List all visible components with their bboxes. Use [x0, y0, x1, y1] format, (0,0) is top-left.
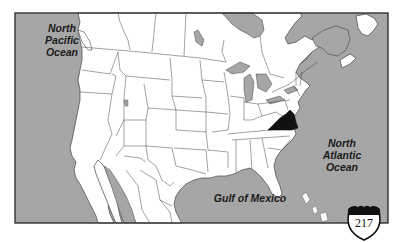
- atlantic-label-line: North: [313, 137, 371, 149]
- atlantic-label-line: Atlantic: [313, 149, 371, 161]
- atlantic-label-line: Ocean: [313, 161, 371, 173]
- atlantic-ocean-label: North Atlantic Ocean: [313, 137, 371, 173]
- pacific-label-line: Ocean: [34, 46, 90, 58]
- pacific-ocean-label: North Pacific Ocean: [34, 22, 90, 58]
- map-container: North Pacific Ocean North Atlantic Ocean…: [0, 0, 402, 242]
- gulf-of-mexico-label: Gulf of Mexico: [204, 192, 296, 204]
- pacific-label-line: North: [34, 22, 90, 34]
- page-number: 217: [346, 216, 382, 231]
- pacific-label-line: Pacific: [34, 34, 90, 46]
